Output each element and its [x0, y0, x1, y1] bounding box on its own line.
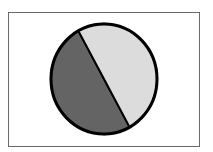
pie-slices [51, 24, 157, 134]
pie-chart [0, 0, 213, 152]
